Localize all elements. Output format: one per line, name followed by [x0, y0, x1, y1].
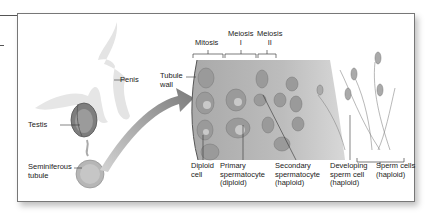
zoom-arrow [100, 88, 194, 172]
label-meiosis-1: Meiosis I [228, 30, 253, 47]
tubule-shape [76, 140, 104, 188]
label-tubule-wall: Tubule wall [160, 72, 183, 89]
label-seminiferous-tubule: Seminiferous tubule [28, 163, 72, 180]
label-secondary-spermatocyte: Secondary spermatocyte (haploid) [275, 162, 320, 188]
label-testis: Testis [28, 121, 47, 130]
label-penis: Penis [120, 76, 139, 85]
label-mitosis: Mitosis [195, 39, 218, 48]
label-meiosis-2: Meiosis II [257, 30, 282, 47]
label-sperm-cells: Sperm cells (haploid) [376, 162, 415, 179]
label-developing-sperm: Developing sperm cell (haploid) [330, 162, 368, 188]
tubule-tissue [192, 60, 345, 160]
label-primary-spermatocyte: Primary spermatocyte (diploid) [220, 162, 265, 188]
testis-shape [71, 103, 97, 137]
label-diploid-cell: Diploid cell [191, 162, 214, 179]
